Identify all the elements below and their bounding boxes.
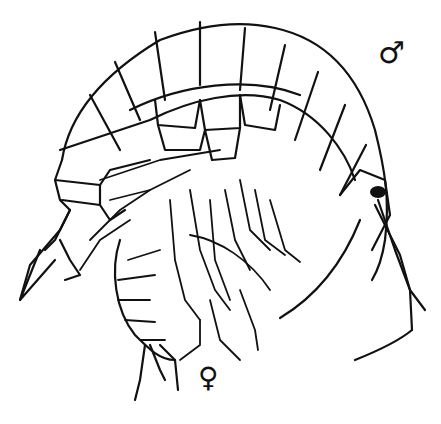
amphipod-illustration xyxy=(0,0,441,424)
male-symbol: ♂ xyxy=(378,38,405,68)
female-amphipod xyxy=(80,150,300,400)
male-amphipod xyxy=(20,22,425,360)
female-symbol: ♀ xyxy=(198,364,219,392)
